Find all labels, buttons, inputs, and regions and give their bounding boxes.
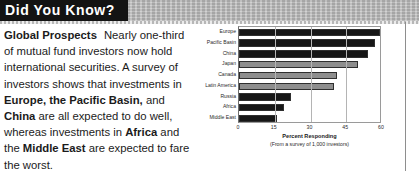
- chart-category-label: Russia: [194, 91, 236, 102]
- did-you-know-callout: Did You Know? Global ProspectsNearly one…: [0, 0, 419, 171]
- chart-bars: [239, 27, 380, 122]
- chart-category-label: Pacific Basin: [194, 37, 236, 48]
- chart-bar-row: [239, 81, 380, 92]
- chart-bar: [239, 115, 277, 122]
- chart-bar: [239, 93, 291, 100]
- chart-x-tick-label: 0: [237, 124, 240, 130]
- chart-bar-row: [239, 92, 380, 103]
- chart-x-axis-ticks: 015304560: [238, 124, 381, 133]
- article-emphasis: Europe, the Pacific Basin,: [4, 94, 143, 106]
- chart-bar-row: [239, 38, 380, 49]
- chart-bar: [239, 72, 337, 79]
- chart-bar: [239, 29, 380, 36]
- article-emphasis: Middle East: [23, 142, 86, 154]
- chart-bar: [239, 39, 375, 46]
- chart-category-label: Europe: [194, 26, 236, 37]
- chart-category-label: Middle East: [194, 112, 236, 123]
- article-text: and: [143, 94, 165, 106]
- chart-category-label: Africa: [194, 101, 236, 112]
- chart-bar-row: [239, 102, 380, 113]
- chart-x-tick-label: 30: [307, 124, 313, 130]
- chart-x-tick-label: 45: [342, 124, 348, 130]
- article-emphasis: China: [4, 110, 35, 122]
- chart-plot-area: [238, 26, 381, 123]
- chart-category-label: Latin America: [194, 80, 236, 91]
- chart-bar: [239, 50, 368, 57]
- chart-gridline: [275, 27, 276, 122]
- chart-category-label: China: [194, 48, 236, 59]
- chart-category-label: Canada: [194, 69, 236, 80]
- chart-bar-row: [239, 27, 380, 38]
- chart-x-axis-title: Percent Responding: [238, 133, 381, 139]
- chart-bar-row: [239, 70, 380, 81]
- chart-source-note: (From a survey of 1,000 investors): [228, 141, 391, 147]
- chart: EuropePacific BasinChinaJapanCanadaLatin…: [194, 24, 394, 156]
- title-block: Did You Know?: [0, 0, 128, 21]
- article-emphasis: Africa: [125, 126, 157, 138]
- page-title: Did You Know?: [5, 2, 115, 18]
- article-body: Global ProspectsNearly one-third of mutu…: [4, 27, 192, 171]
- chart-category-labels: EuropePacific BasinChinaJapanCanadaLatin…: [194, 26, 236, 123]
- header-band: Did You Know?: [0, 0, 419, 21]
- chart-bar: [239, 104, 284, 111]
- chart-x-tick-label: 15: [271, 124, 277, 130]
- chart-gridline: [346, 27, 347, 122]
- chart-gridline: [311, 27, 312, 122]
- right-border-rule: [405, 22, 406, 171]
- chart-category-label: Japan: [194, 58, 236, 69]
- chart-bar: [239, 61, 358, 68]
- chart-bar: [239, 83, 334, 90]
- article-lead-in: Global Prospects: [4, 29, 97, 41]
- chart-x-tick-label: 60: [378, 124, 384, 130]
- chart-bar-row: [239, 113, 380, 124]
- chart-bar-row: [239, 59, 380, 70]
- chart-bar-row: [239, 49, 380, 60]
